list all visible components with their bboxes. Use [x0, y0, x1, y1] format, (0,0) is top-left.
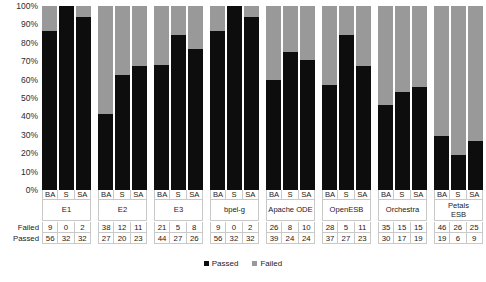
stacked-bar — [378, 6, 393, 190]
data-cell-passed: 32 — [75, 233, 91, 244]
stacked-bar — [42, 6, 57, 190]
bar-segment-passed — [210, 31, 225, 190]
bars-layer — [42, 6, 483, 190]
bar-segment-passed — [322, 85, 337, 190]
bar-segment-failed — [188, 6, 203, 49]
bar-segment-failed — [339, 6, 354, 35]
bar-segment-passed — [395, 92, 410, 190]
y-axis-tick: 100% — [16, 2, 38, 11]
bar-segment-passed — [42, 31, 57, 190]
data-cell-failed: 26 — [266, 222, 282, 233]
data-spacer — [91, 222, 98, 233]
bar-segment-passed — [339, 35, 354, 190]
axis-spacer — [91, 190, 98, 200]
x-axis-tick-label: SA — [75, 190, 91, 200]
x-axis-group-label: PetalsESB — [434, 200, 483, 221]
bar-segment-failed — [210, 6, 225, 31]
x-axis-tick-label: BA — [266, 190, 282, 200]
failed-values: 90238121121589022681028511351515462625 — [42, 222, 483, 233]
bar-segment-passed — [451, 155, 466, 190]
bar-group — [42, 6, 91, 190]
x-axis-tick-label: S — [58, 190, 74, 200]
data-cell-passed: 44 — [154, 233, 170, 244]
bar-segment-passed — [227, 6, 242, 190]
bar-segment-passed — [171, 35, 186, 190]
x-axis-group-row: E1E2E3bpel-gApache ODEOpenESBOrchestraPe… — [42, 200, 483, 221]
x-axis-label-table: BASSABASSABASSABASSABASSABASSABASSABASSA… — [42, 190, 483, 221]
stacked-bar — [59, 6, 74, 190]
bar-segment-failed — [98, 6, 113, 114]
bar-segment-failed — [132, 6, 147, 66]
stacked-bar — [300, 6, 315, 190]
x-axis-tick-label: S — [450, 190, 466, 200]
data-spacer — [203, 222, 210, 233]
bar-segment-passed — [266, 80, 281, 190]
bar-segment-failed — [266, 6, 281, 80]
data-cell-passed: 24 — [299, 233, 315, 244]
bar-segment-passed — [115, 75, 130, 190]
data-cell-passed: 6 — [450, 233, 466, 244]
bar-segment-passed — [468, 141, 483, 190]
bar-segment-failed — [154, 6, 169, 65]
x-axis-tick-label: S — [338, 190, 354, 200]
y-axis-tick: 40% — [21, 112, 38, 121]
data-cell-failed: 46 — [434, 222, 450, 233]
x-axis-group-label: Apache ODE — [266, 200, 315, 221]
data-cell-passed: 19 — [411, 233, 427, 244]
bar-segment-failed — [322, 6, 337, 85]
stacked-bar — [412, 6, 427, 190]
axis-spacer — [259, 200, 266, 210]
y-axis-tick: 10% — [21, 167, 38, 176]
data-spacer — [427, 233, 434, 244]
bar-segment-failed — [244, 6, 259, 17]
x-axis-tick-label: S — [226, 190, 242, 200]
bar-segment-failed — [300, 6, 315, 60]
data-spacer — [91, 233, 98, 244]
x-axis-group-label: OpenESB — [322, 200, 371, 221]
data-cell-failed: 15 — [394, 222, 410, 233]
data-cell-failed: 12 — [114, 222, 130, 233]
axis-spacer — [203, 200, 210, 210]
data-cell-passed: 32 — [243, 233, 259, 244]
data-spacer — [147, 222, 154, 233]
y-axis-tick: 60% — [21, 75, 38, 84]
data-spacer — [315, 222, 322, 233]
stacked-bar — [244, 6, 259, 190]
axis-spacer — [259, 190, 266, 200]
data-cell-failed: 38 — [98, 222, 114, 233]
data-cell-failed: 35 — [378, 222, 394, 233]
data-cell-failed: 0 — [58, 222, 74, 233]
x-axis-tick-label: S — [170, 190, 186, 200]
data-row-failed: Failed 902381211215890226810285113515154… — [0, 222, 483, 233]
data-cell-failed: 5 — [170, 222, 186, 233]
stacked-bar — [154, 6, 169, 190]
x-axis-tick-label: SA — [467, 190, 483, 200]
y-axis: 100%90%80%70%60%50%40%30%20%10%0% — [0, 6, 41, 190]
legend-swatch-failed-icon — [252, 261, 257, 266]
data-cell-passed: 32 — [58, 233, 74, 244]
x-axis-tick-label: BA — [378, 190, 394, 200]
x-axis-tick-label: SA — [243, 190, 259, 200]
bar-segment-passed — [300, 60, 315, 190]
group-spacer — [259, 6, 266, 190]
x-axis-tick-label: BA — [98, 190, 114, 200]
axis-spacer — [315, 190, 322, 200]
bar-segment-failed — [378, 6, 393, 105]
data-spacer — [427, 222, 434, 233]
data-cell-failed: 8 — [187, 222, 203, 233]
x-axis-group-label: E1 — [42, 200, 91, 221]
stacked-bar — [451, 6, 466, 190]
data-cell-failed: 9 — [42, 222, 58, 233]
data-cell-passed: 27 — [170, 233, 186, 244]
data-cell-passed: 32 — [226, 233, 242, 244]
data-cell-passed: 27 — [338, 233, 354, 244]
y-axis-tick: 70% — [21, 57, 38, 66]
bar-group — [266, 6, 315, 190]
axis-spacer — [427, 190, 434, 200]
legend-label-failed: Failed — [260, 259, 282, 268]
data-cell-passed: 30 — [378, 233, 394, 244]
x-axis-tick-label: SA — [411, 190, 427, 200]
bar-group — [322, 6, 371, 190]
stacked-bar — [283, 6, 298, 190]
x-axis-tick-label: SA — [355, 190, 371, 200]
